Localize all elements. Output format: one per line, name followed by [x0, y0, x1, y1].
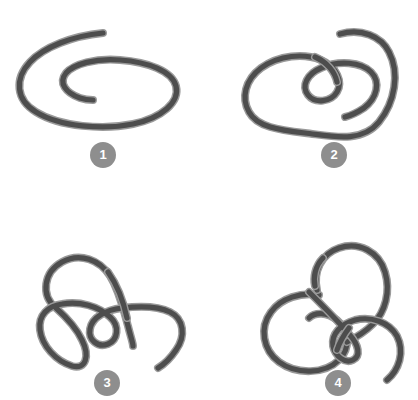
panel-badge-3[interactable]: 3 [94, 370, 120, 396]
rope-drawing-2 [209, 0, 418, 200]
panel-badge-2[interactable]: 2 [321, 142, 347, 168]
rope-drawing-4 [209, 200, 418, 400]
rope-panel-grid [0, 0, 418, 400]
rope-drawing-1 [0, 0, 209, 200]
panel-badge-4[interactable]: 4 [325, 370, 351, 396]
rope-panel-4[interactable] [209, 200, 418, 400]
rope-panel-2[interactable] [209, 0, 418, 200]
rope-panel-1[interactable] [0, 0, 209, 200]
panel-badge-1[interactable]: 1 [90, 142, 116, 168]
